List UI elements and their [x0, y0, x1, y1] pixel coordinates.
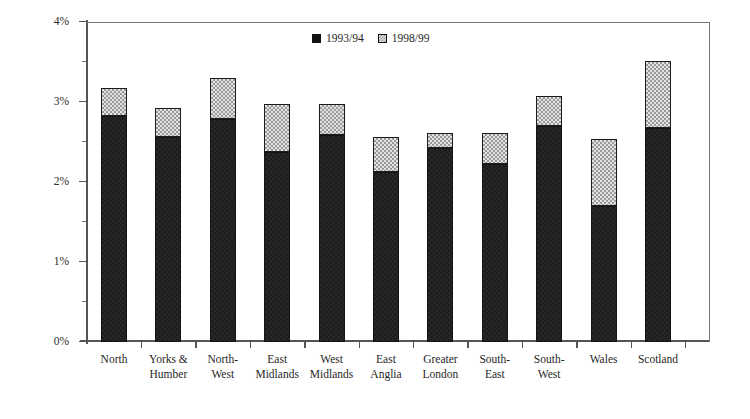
- x-axis-label-line: West: [507, 367, 591, 382]
- bar-segment-1998-99: [319, 104, 345, 135]
- bar-segment-1993-94: [591, 206, 617, 342]
- bar-segment-1998-99: [427, 133, 453, 147]
- y-tick-label: 4%: [54, 15, 69, 27]
- x-tick: [685, 342, 686, 348]
- y-tick: 4%: [79, 21, 86, 22]
- bar-segment-1998-99: [482, 133, 508, 163]
- x-tick: [304, 342, 305, 348]
- plot-top-border: [86, 22, 710, 23]
- y-tick-label: 2%: [54, 175, 69, 187]
- x-axis-label-line: Scotland: [616, 352, 700, 367]
- x-axis-label: Scotland: [616, 352, 700, 367]
- x-tick: [467, 342, 468, 348]
- y-tick-minor: [82, 61, 86, 62]
- x-tick: [195, 342, 196, 348]
- bar-segment-1998-99: [591, 139, 617, 206]
- bar-segment-1998-99: [155, 108, 181, 138]
- bar-segment-1998-99: [210, 78, 236, 119]
- y-tick-label: 0%: [54, 335, 69, 347]
- bar-segment-1993-94: [210, 119, 236, 342]
- x-tick: [359, 342, 360, 348]
- y-tick: 3%: [79, 101, 86, 102]
- x-tick: [631, 342, 632, 348]
- bar-segment-1998-99: [264, 104, 290, 152]
- y-tick-minor: [82, 141, 86, 142]
- plot-right-border: [709, 22, 710, 342]
- bar-segment-1993-94: [482, 164, 508, 342]
- y-axis-line: [86, 20, 88, 344]
- bar-segment-1998-99: [373, 137, 399, 171]
- x-tick: [250, 342, 251, 348]
- x-tick: [576, 342, 577, 348]
- x-tick: [141, 342, 142, 348]
- y-tick: 1%: [79, 261, 86, 262]
- plot-area: 0%1%2%3%4%: [86, 22, 710, 342]
- y-tick-minor: [82, 221, 86, 222]
- y-tick-label: 3%: [54, 95, 69, 107]
- bar-segment-1993-94: [373, 172, 399, 342]
- bar-segment-1993-94: [155, 137, 181, 342]
- y-tick-minor: [82, 301, 86, 302]
- bar-segment-1998-99: [536, 96, 562, 126]
- bar-segment-1998-99: [101, 88, 127, 115]
- bar-segment-1993-94: [264, 152, 290, 342]
- bar-segment-1998-99: [645, 61, 671, 127]
- bar-segment-1993-94: [427, 148, 453, 342]
- bar-segment-1993-94: [101, 116, 127, 342]
- y-tick: 2%: [79, 181, 86, 182]
- x-tick: [413, 342, 414, 348]
- bar-segment-1993-94: [536, 126, 562, 342]
- bar-segment-1993-94: [319, 135, 345, 342]
- chart-page: percentage of gross income 1993/94 1998/…: [0, 0, 750, 419]
- bar-segment-1993-94: [645, 128, 671, 342]
- x-tick: [522, 342, 523, 348]
- y-tick: 0%: [79, 341, 86, 342]
- y-tick-label: 1%: [54, 255, 69, 267]
